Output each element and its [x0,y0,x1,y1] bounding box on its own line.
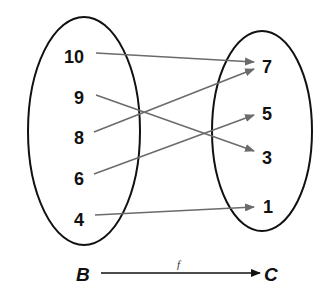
arrow-6-to-5 [94,115,254,174]
arrow-4-to-1 [95,207,254,215]
domain-element: 8 [74,128,84,148]
codomain-element: 7 [262,57,272,77]
domain-element: 6 [74,169,84,189]
mapping-diagram: 10 9 8 6 4 7 5 3 1 C --> B f C [0,0,331,294]
codomain-element: 1 [263,197,273,217]
function-label: f [177,258,182,270]
domain-element: 10 [64,47,84,67]
codomain-element: 5 [262,104,272,124]
domain-element: 9 [74,88,84,108]
codomain-element: 3 [262,148,272,168]
domain-element: 4 [74,210,84,230]
set-c-label: C [264,264,278,285]
set-b-label: B [76,264,90,285]
